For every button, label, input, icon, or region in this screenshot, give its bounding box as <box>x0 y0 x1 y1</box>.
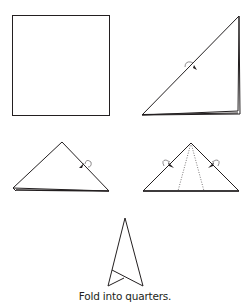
step-1-square <box>13 16 110 116</box>
caption: Fold into quarters. <box>0 290 250 302</box>
step-2-folded-triangle <box>142 16 240 115</box>
step-3-triangle <box>13 142 109 191</box>
origami-diagram <box>0 0 250 308</box>
step-5-kite-result <box>108 218 143 286</box>
step-4-triangle-fold-lines <box>143 143 239 191</box>
